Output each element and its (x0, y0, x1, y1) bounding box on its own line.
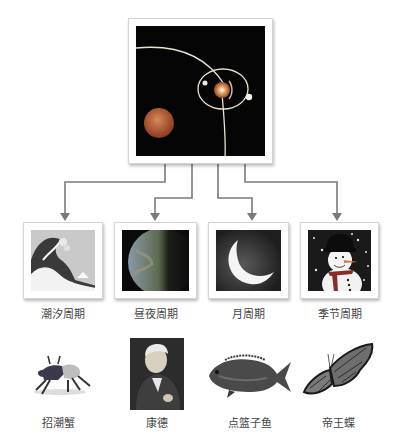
monarch-butterfly-label: 帝王蝶 (298, 414, 378, 430)
seasonal-cycle-label: 季节周期 (300, 305, 379, 321)
fiddler-crab-label: 招潮蟹 (18, 414, 98, 430)
earth-half-lit-icon (122, 230, 189, 291)
great-wave-icon (31, 230, 95, 291)
connector-lunar (218, 164, 252, 214)
rabbitfish-icon (205, 350, 295, 400)
orbit-diagram-icon (136, 26, 265, 156)
day-night-cycle-frame (114, 222, 197, 299)
rabbitfish-label: 点篮子鱼 (210, 414, 290, 430)
arrow-icon (60, 213, 70, 221)
tidal-cycle-label: 潮汐周期 (23, 305, 103, 321)
day-night-cycle-label: 昼夜周期 (114, 305, 197, 321)
arrow-icon (247, 213, 257, 221)
connector-seasonal (245, 164, 337, 214)
seasonal-cycle-frame (300, 222, 379, 299)
connector-daynight (155, 164, 192, 214)
monarch-butterfly-icon (300, 342, 375, 400)
kant-label: 康德 (125, 414, 189, 430)
lunar-cycle-label: 月周期 (208, 305, 289, 321)
tidal-cycle-frame (23, 222, 103, 299)
lunar-cycle-frame (208, 222, 289, 299)
arrow-icon (150, 213, 160, 221)
connector-tidal (65, 164, 165, 214)
arrow-icon (332, 213, 342, 221)
solar-system-frame (128, 18, 273, 164)
fiddler-crab-icon (18, 350, 98, 400)
snowman-icon (308, 230, 371, 291)
kant-portrait-icon (130, 338, 184, 410)
crescent-moon-icon (216, 230, 281, 291)
